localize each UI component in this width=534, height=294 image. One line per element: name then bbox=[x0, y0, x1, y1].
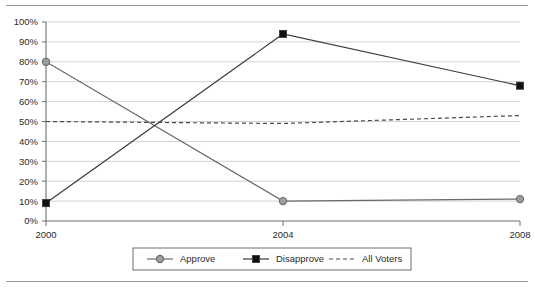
y-tick-label: 10% bbox=[19, 196, 39, 207]
data-point-marker bbox=[42, 199, 49, 206]
y-tick-label: 80% bbox=[19, 56, 39, 67]
y-tick-label: 0% bbox=[24, 215, 38, 226]
series-line-all-voters bbox=[46, 116, 520, 124]
series-line-approve bbox=[46, 62, 520, 201]
x-tick-marks-group bbox=[46, 221, 520, 226]
x-tick-label: 2004 bbox=[272, 229, 293, 240]
top-divider-rule bbox=[6, 5, 528, 6]
y-tick-label: 100% bbox=[14, 16, 39, 27]
chart-legend: ApproveDisapproveAll Voters bbox=[133, 248, 411, 270]
legend-label: All Voters bbox=[362, 253, 402, 264]
y-tick-label: 20% bbox=[19, 176, 39, 187]
legend-label: Approve bbox=[180, 253, 215, 264]
y-tick-label: 30% bbox=[19, 156, 39, 167]
line-chart-figure: 0%10%20%30%40%50%60%70%80%90%100% 200020… bbox=[0, 8, 534, 278]
data-point-marker bbox=[279, 198, 286, 205]
series-markers-group bbox=[42, 30, 523, 206]
legend-marker-icon bbox=[252, 255, 259, 262]
data-point-marker bbox=[516, 196, 523, 203]
data-point-marker bbox=[279, 30, 286, 37]
x-tick-label: 2000 bbox=[35, 229, 56, 240]
legend-marker-icon bbox=[156, 255, 163, 262]
legend-entry-disapprove[interactable]: Disapprove bbox=[243, 253, 324, 264]
chart-svg: 0%10%20%30%40%50%60%70%80%90%100% 200020… bbox=[0, 8, 534, 278]
gridlines-group bbox=[46, 22, 520, 201]
chart-page: 0%10%20%30%40%50%60%70%80%90%100% 200020… bbox=[0, 0, 534, 294]
data-point-marker bbox=[516, 82, 523, 89]
x-tick-label: 2008 bbox=[509, 229, 530, 240]
series-lines-group bbox=[46, 34, 520, 203]
legend-label: Disapprove bbox=[276, 253, 324, 264]
y-tick-label: 50% bbox=[19, 116, 39, 127]
data-point-marker bbox=[42, 58, 49, 65]
y-tick-label: 90% bbox=[19, 36, 39, 47]
y-axis-tick-labels: 0%10%20%30%40%50%60%70%80%90%100% bbox=[14, 16, 39, 226]
y-tick-label: 70% bbox=[19, 76, 39, 87]
x-axis-tick-labels: 200020042008 bbox=[35, 229, 530, 240]
y-tick-marks-group bbox=[42, 22, 46, 221]
y-tick-label: 40% bbox=[19, 136, 39, 147]
y-tick-label: 60% bbox=[19, 96, 39, 107]
bottom-divider-rule bbox=[6, 281, 528, 282]
